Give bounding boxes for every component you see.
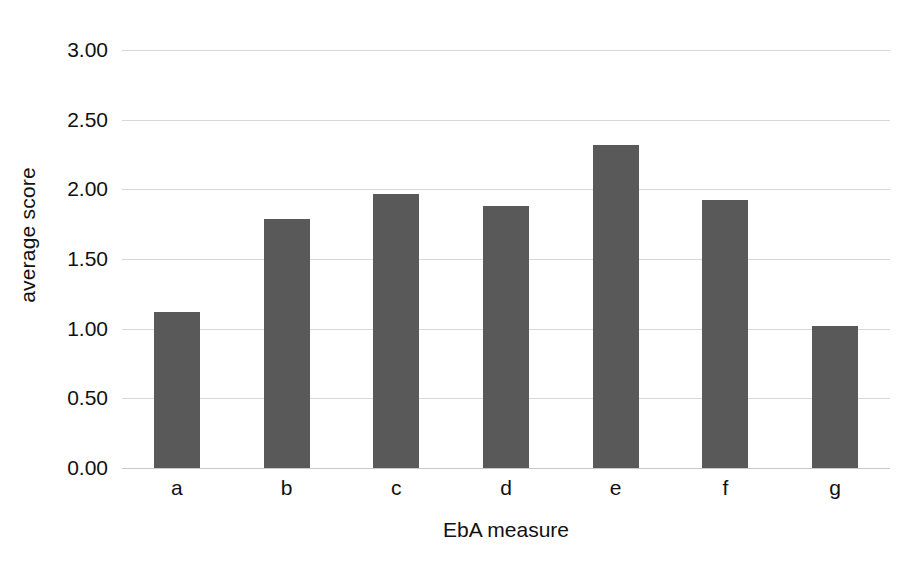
y-axis-tick-label: 0.00 xyxy=(22,456,108,480)
x-axis-tick-label: c xyxy=(391,476,402,500)
x-axis-tick-label: a xyxy=(171,476,183,500)
bar xyxy=(483,206,529,468)
bar-chart: average score 0.000.501.001.502.002.503.… xyxy=(0,0,920,567)
y-axis-tick-label: 3.00 xyxy=(22,38,108,62)
axis-baseline xyxy=(122,468,890,469)
x-axis-tick-label: d xyxy=(500,476,512,500)
gridline xyxy=(122,50,890,51)
bar xyxy=(264,219,310,468)
bar xyxy=(154,312,200,468)
gridline xyxy=(122,120,890,121)
x-axis-tick-label: g xyxy=(829,476,841,500)
bar xyxy=(593,145,639,468)
x-axis-tick-label: e xyxy=(610,476,622,500)
y-axis-tick-label: 0.50 xyxy=(22,386,108,410)
y-axis-tick-label: 1.50 xyxy=(22,247,108,271)
y-axis-tick-label: 1.00 xyxy=(22,317,108,341)
x-axis-tick-label: b xyxy=(281,476,293,500)
y-axis-tick-label: 2.00 xyxy=(22,177,108,201)
y-axis-tick-labels: 0.000.501.001.502.002.503.00 xyxy=(0,50,108,468)
bar xyxy=(373,194,419,468)
gridline xyxy=(122,189,890,190)
x-axis-tick-labels: abcdefg xyxy=(122,476,890,512)
bar xyxy=(702,200,748,468)
plot-area xyxy=(122,50,890,468)
x-axis-tick-label: f xyxy=(723,476,729,500)
bar xyxy=(812,326,858,468)
y-axis-tick-label: 2.50 xyxy=(22,108,108,132)
x-axis-title: EbA measure xyxy=(122,518,890,542)
